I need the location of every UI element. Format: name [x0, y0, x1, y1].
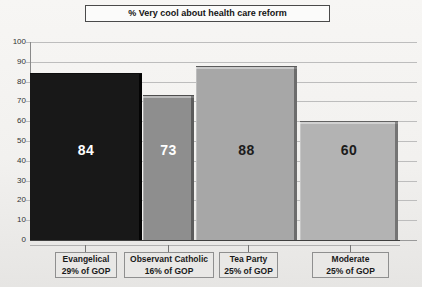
y-tick-label-10: 10 — [2, 215, 26, 225]
value-label-observant-catholic: 73 — [143, 140, 194, 160]
value-label-moderate: 60 — [300, 140, 398, 160]
y-tick-label-20: 20 — [2, 195, 26, 205]
bar-moderate — [300, 121, 398, 240]
bar-observant-catholic — [143, 95, 194, 240]
y-tick-label-40: 40 — [2, 156, 26, 166]
category-name: Tea Party — [220, 254, 277, 266]
y-tick-label-50: 50 — [2, 136, 26, 146]
chart-title-text: % Very cool about health care reform — [128, 8, 287, 18]
category-sublabel: 25% of GOP — [220, 266, 277, 278]
y-tick-label-90: 90 — [2, 57, 26, 67]
y-tick-label-100: 100 — [2, 37, 26, 47]
value-label-evangelical: 84 — [30, 140, 142, 160]
category-sublabel: 16% of GOP — [125, 266, 213, 278]
x-axis-baseline-extension — [400, 240, 417, 241]
category-sublabel: 25% of GOP — [313, 266, 388, 278]
category-label-evangelical: Evangelical 29% of GOP — [55, 252, 117, 278]
category-name: Observant Catholic — [125, 254, 213, 266]
chart-title: % Very cool about health care reform — [85, 5, 330, 22]
y-tick-label-70: 70 — [2, 96, 26, 106]
y-tick-label-0: 0 — [2, 235, 26, 245]
gridline-100 — [26, 42, 417, 43]
gridline-90 — [26, 62, 417, 63]
category-name: Moderate — [313, 254, 388, 266]
category-name: Evangelical — [56, 254, 116, 266]
category-label-tea-party: Tea Party 25% of GOP — [219, 252, 278, 278]
plot-area: 84 73 88 60 — [30, 42, 413, 240]
y-tick-label-60: 60 — [2, 116, 26, 126]
category-label-observant-catholic: Observant Catholic 16% of GOP — [124, 252, 214, 278]
y-tick-label-30: 30 — [2, 176, 26, 186]
chart-canvas: % Very cool about health care reform 100… — [0, 0, 422, 287]
value-label-tea-party: 88 — [196, 140, 297, 160]
category-sublabel: 29% of GOP — [56, 266, 116, 278]
y-tick-label-80: 80 — [2, 77, 26, 87]
category-label-moderate: Moderate 25% of GOP — [312, 252, 389, 278]
